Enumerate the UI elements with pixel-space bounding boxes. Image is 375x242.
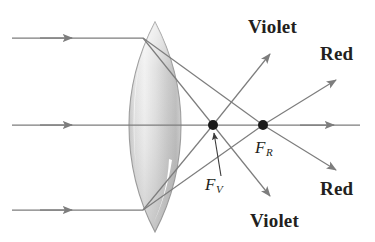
incoming-ray-group [12, 38, 143, 210]
focal-point-violet-label: FV [205, 176, 222, 193]
red-ray-lower [263, 125, 336, 170]
label-violet-top: Violet [248, 17, 297, 36]
label-violet-bottom: Violet [250, 211, 299, 230]
violet-ray-upper [213, 54, 270, 125]
fr-symbol: F [255, 138, 265, 157]
fv-subscript: V [216, 183, 223, 195]
label-red-bottom: Red [320, 179, 353, 198]
fv-symbol: F [205, 175, 215, 194]
label-red-top: Red [320, 44, 353, 63]
fv-leader-line [214, 133, 221, 176]
red-ray-upper [263, 80, 336, 125]
incoming-ray-arrowheads [40, 38, 72, 210]
fr-subscript: R [266, 146, 273, 158]
diagram-canvas [0, 0, 375, 242]
focal-point-red-dot [258, 120, 268, 130]
chromatic-aberration-diagram: Violet Red Red Violet FV FR [0, 0, 375, 242]
focal-point-violet-dot [208, 120, 218, 130]
focal-point-red-label: FR [255, 139, 272, 156]
